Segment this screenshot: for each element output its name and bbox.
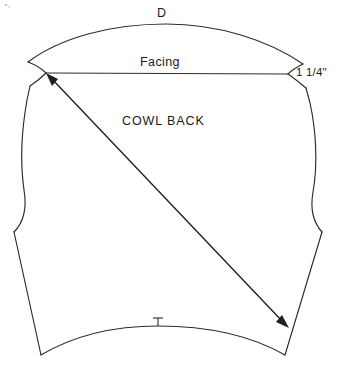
measurement-label: 1 1/4" <box>296 66 327 78</box>
left-shoulder-notch-lower <box>30 73 46 86</box>
pattern-diagram: D Facing COWL BACK 1 1/4" <box>0 0 343 371</box>
left-side-seam <box>14 86 30 232</box>
facing-label: Facing <box>140 55 180 69</box>
right-side-seam <box>306 88 322 232</box>
right-hip-seam <box>285 232 322 355</box>
scan-artifact-speck <box>8 6 10 8</box>
top-marker-label: D <box>157 6 166 20</box>
scan-artifact-speck <box>5 4 7 6</box>
left-hip-seam <box>14 232 41 355</box>
piece-name-label: COWL BACK <box>122 114 205 128</box>
facing-fold-line <box>46 73 288 74</box>
hem-edge <box>41 326 285 355</box>
left-shoulder-notch-upper <box>28 62 46 73</box>
